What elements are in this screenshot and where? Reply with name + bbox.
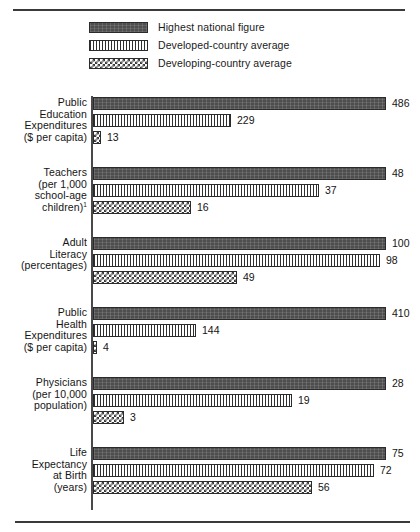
bar [93,237,386,250]
bar-group-label-line: Teachers [44,166,87,178]
chart-legend: Highest national figureDeveloped-country… [89,22,292,69]
legend-item: Highest national figure [89,22,292,33]
bar-group-label: Physicians(per 10,000population) [0,376,88,412]
bar-value-label: 75 [392,447,404,460]
bar-group-label-line: Public [58,306,87,318]
bar-value-label: 144 [202,324,220,337]
bar-row: 486 [93,97,410,110]
bar-group-label-line: children) [42,201,83,213]
bar-group-label-line: Health [56,318,87,330]
bar-value-label: 37 [325,184,337,197]
bar-row: 410 [93,307,410,320]
bar-group-label-line: (per 1,000 [38,178,87,190]
bar-group-label: AdultLiteracy(percentages) [0,236,88,272]
bar-group-label-line: Education [39,108,87,120]
bar-group-bars: 28193 [93,376,404,424]
bar-value-label: 72 [380,464,392,477]
bar [93,167,386,180]
bar [93,447,386,460]
bar-row: 100 [93,237,410,250]
footnote-marker: 1 [83,200,87,207]
bar-value-label: 28 [392,377,404,390]
bar [93,394,292,407]
bar-row: 13 [93,131,410,144]
bar-row: 75 [93,447,404,460]
bar-group-label-line: (per 10,000 [32,388,87,400]
legend-item-label: Developed-country average [158,40,290,51]
bar-group: Physicians(per 10,000population)28193 [0,376,420,424]
legend-item: Developing-country average [89,58,292,69]
bar-group: AdultLiteracy(percentages)1009849 [0,236,420,284]
bar [93,97,386,110]
bar-row: 72 [93,464,404,477]
bar-group-label-line: (percentages) [21,259,87,271]
bar-row: 229 [93,114,410,127]
bar-value-label: 229 [237,114,255,127]
bar-group-label: PublicEducationExpenditures($ per capita… [0,96,88,143]
bar [93,324,196,337]
bar-group-label-line: population) [34,399,87,411]
legend-swatch-highest [89,22,148,33]
bar-group-label-line: (years) [54,481,87,493]
bar-group: PublicEducationExpenditures($ per capita… [0,96,420,144]
legend-item-label: Highest national figure [158,22,265,33]
bar-row: 48 [93,167,404,180]
bar-group-label-line: Public [58,96,87,108]
bar-group-label-line: Physicians [36,376,87,388]
bar-group-bars: 757256 [93,446,404,494]
bar-value-label: 19 [298,394,310,407]
bar [93,254,380,267]
bar [93,271,237,284]
bar-group-label-line: Expectancy [32,458,87,470]
bar-row: 19 [93,394,404,407]
bar-group: PublicHealthExpenditures($ per capita)41… [0,306,420,354]
bar-group-label: PublicHealthExpenditures($ per capita) [0,306,88,353]
bar-group-label-line: Life [70,446,87,458]
bar-value-label: 16 [197,201,209,214]
bar [93,464,374,477]
bar-group-bars: 483716 [93,166,404,214]
bar-group-label-line: Adult [63,236,87,248]
bar-row: 3 [93,411,404,424]
bar [93,184,319,197]
bar-group-bars: 1009849 [93,236,410,284]
bar-group-label-line: at Birth [53,469,87,481]
bar-value-label: 486 [392,97,410,110]
legend-item: Developed-country average [89,40,292,51]
bar-value-label: 98 [386,254,398,267]
bar-value-label: 4 [103,341,109,354]
bottom-divider-rule [15,521,410,523]
bar-value-label: 56 [318,481,330,494]
bar-group: LifeExpectancyat Birth(years)757256 [0,446,420,494]
bar-value-label: 13 [107,131,119,144]
bar [93,481,312,494]
bar-group-label-line: Literacy [49,248,87,260]
bar [93,201,191,214]
bar-group: Teachers(per 1,000school-agechildren)148… [0,166,420,214]
bar-group-bars: 4101444 [93,306,410,354]
bar-row: 16 [93,201,404,214]
bar-row: 37 [93,184,404,197]
bar [93,131,101,144]
bar-group-label: Teachers(per 1,000school-agechildren)1 [0,166,88,213]
bar-group-label: LifeExpectancyat Birth(years) [0,446,88,493]
bar-group-label-line: Expenditures [25,119,88,131]
bar-row: 98 [93,254,410,267]
chart-plot-area: PublicEducationExpenditures($ per capita… [0,96,420,516]
legend-swatch-developing [89,58,148,69]
bar-value-label: 48 [392,167,404,180]
bar-row: 144 [93,324,410,337]
bar-row: 49 [93,271,410,284]
bar [93,114,231,127]
bar-row: 4 [93,341,410,354]
bar-value-label: 410 [392,307,410,320]
bar [93,377,386,390]
bar-value-label: 3 [130,411,136,424]
legend-swatch-developed [89,40,148,51]
bar-group-bars: 48622913 [93,96,410,144]
bar-value-label: 100 [392,237,410,250]
top-divider-rule [13,9,405,11]
bar-row: 28 [93,377,404,390]
bar-group-label-line: ($ per capita) [24,341,87,353]
bar-value-label: 49 [243,271,255,284]
